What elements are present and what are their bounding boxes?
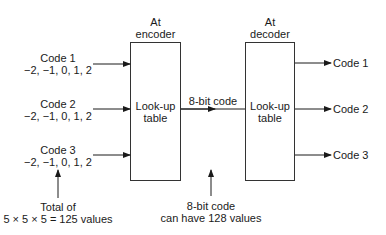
decoder-table-line2: table [245, 112, 295, 124]
input-code-1-values: −2, −1, 0, 1, 2 [8, 64, 108, 76]
encoder-heading-line2: encoder [125, 28, 186, 40]
total-annotation-line1: Total of [0, 201, 116, 213]
decoder-table-line1: Look-up [245, 100, 295, 112]
input-code-3: Code 3 −2, −1, 0, 1, 2 [8, 144, 108, 168]
encoder-heading: At encoder [125, 16, 186, 40]
decoder-heading-line1: At [240, 16, 300, 28]
output-code-2: Code 2 [333, 103, 368, 115]
encoder-table-line2: table [130, 112, 181, 124]
input-code-2-name: Code 2 [8, 98, 108, 110]
input-code-1: Code 1 −2, −1, 0, 1, 2 [8, 52, 108, 76]
capacity-annotation-line1: 8-bit code [155, 200, 267, 212]
input-code-1-name: Code 1 [8, 52, 108, 64]
output-code-1: Code 1 [333, 57, 368, 69]
output-code-3: Code 3 [333, 149, 368, 161]
capacity-annotation: 8-bit code can have 128 values [155, 200, 267, 224]
decoder-table-label: Look-up table [245, 100, 295, 124]
total-annotation: Total of 5 × 5 × 5 = 125 values [0, 201, 116, 225]
input-code-2: Code 2 −2, −1, 0, 1, 2 [8, 98, 108, 122]
decoder-heading: At decoder [240, 16, 300, 40]
decoder-heading-line2: decoder [240, 28, 300, 40]
input-code-3-values: −2, −1, 0, 1, 2 [8, 156, 108, 168]
encoder-table-line1: Look-up [130, 100, 181, 112]
capacity-annotation-line2: can have 128 values [155, 212, 267, 224]
input-code-2-values: −2, −1, 0, 1, 2 [8, 110, 108, 122]
total-annotation-line2: 5 × 5 × 5 = 125 values [0, 213, 116, 225]
link-label: 8-bit code [181, 95, 245, 107]
input-code-3-name: Code 3 [8, 144, 108, 156]
encoder-table-label: Look-up table [130, 100, 181, 124]
encoder-heading-line1: At [125, 16, 186, 28]
